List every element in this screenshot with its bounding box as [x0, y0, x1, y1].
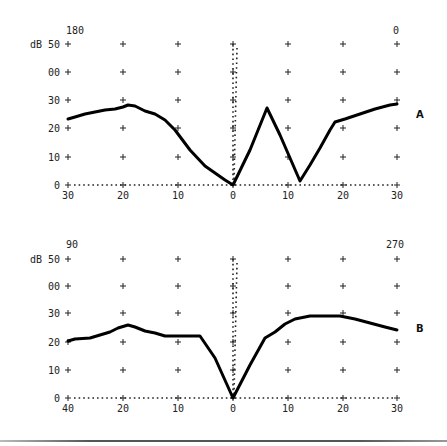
x-tick-label: 10	[172, 403, 184, 414]
x-tick-label: 30	[62, 190, 74, 201]
y-tick-label: 10	[48, 152, 60, 163]
x-tick-label: 10	[282, 403, 294, 414]
x-tick-label: 0	[230, 403, 236, 414]
panel-label: B	[416, 323, 424, 334]
x-tick-label: 40	[62, 403, 74, 414]
x-tick-label: 0	[230, 190, 236, 201]
y-tick-label: 00	[48, 67, 60, 78]
y-tick-label: 30	[48, 95, 60, 106]
polar-response-charts: 50003020100dB18003020100102030A 50003020…	[0, 0, 447, 446]
chart-panel-b: 50003020100dB902704020100102030B	[30, 239, 424, 414]
y-tick-label: 0	[54, 180, 60, 191]
x-tick-label: 20	[337, 403, 349, 414]
x-tick-label: 20	[337, 190, 349, 201]
y-tick-label: 30	[48, 308, 60, 319]
y-axis-unit-label: dB	[30, 254, 42, 265]
response-curve-b	[68, 316, 397, 398]
y-tick-label: 00	[48, 281, 60, 292]
x-tick-label: 10	[172, 190, 184, 201]
corner-angle-right: 270	[386, 239, 404, 250]
panel-label: A	[416, 109, 424, 120]
bottom-divider	[0, 440, 447, 442]
grid-markers	[65, 41, 400, 188]
x-tick-label: 10	[282, 190, 294, 201]
center-reference-line-secondary	[234, 263, 237, 394]
corner-angle-left: 180	[66, 25, 84, 36]
corner-angle-left: 90	[66, 239, 78, 250]
y-tick-label: 20	[48, 123, 60, 134]
x-tick-label: 20	[117, 403, 129, 414]
x-tick-label: 20	[117, 190, 129, 201]
corner-angle-right: 0	[393, 25, 399, 36]
y-tick-label: 10	[48, 365, 60, 376]
y-tick-label: 50	[48, 39, 60, 50]
y-tick-label: 0	[54, 393, 60, 404]
center-reference-line-secondary	[234, 48, 237, 181]
x-tick-label: 30	[391, 403, 403, 414]
y-tick-label: 50	[48, 254, 60, 265]
x-tick-label: 30	[391, 190, 403, 201]
y-axis-unit-label: dB	[30, 39, 42, 50]
chart-panel-a: 50003020100dB18003020100102030A	[30, 25, 424, 201]
y-tick-label: 20	[48, 337, 60, 348]
